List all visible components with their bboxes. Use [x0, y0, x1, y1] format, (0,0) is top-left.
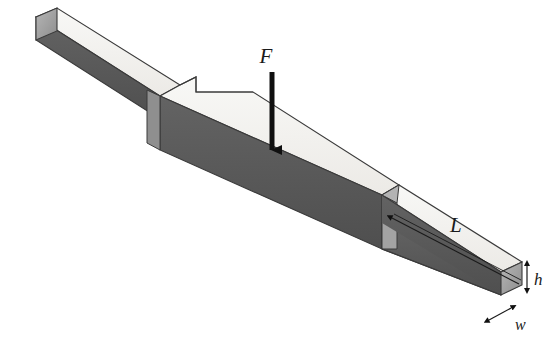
- length-label: L: [449, 213, 462, 237]
- beam-solid: [36, 8, 522, 295]
- figure-root: F L h w: [0, 0, 557, 358]
- center-block-left-step-face: [147, 90, 160, 150]
- width-annotation: w: [489, 307, 526, 333]
- width-dimension-line: [489, 307, 513, 320]
- stepped-beam-diagram: F L h w: [0, 0, 557, 358]
- force-label: F: [259, 44, 273, 68]
- height-annotation: h: [527, 266, 543, 290]
- width-label: w: [515, 316, 526, 333]
- height-label: h: [534, 270, 543, 289]
